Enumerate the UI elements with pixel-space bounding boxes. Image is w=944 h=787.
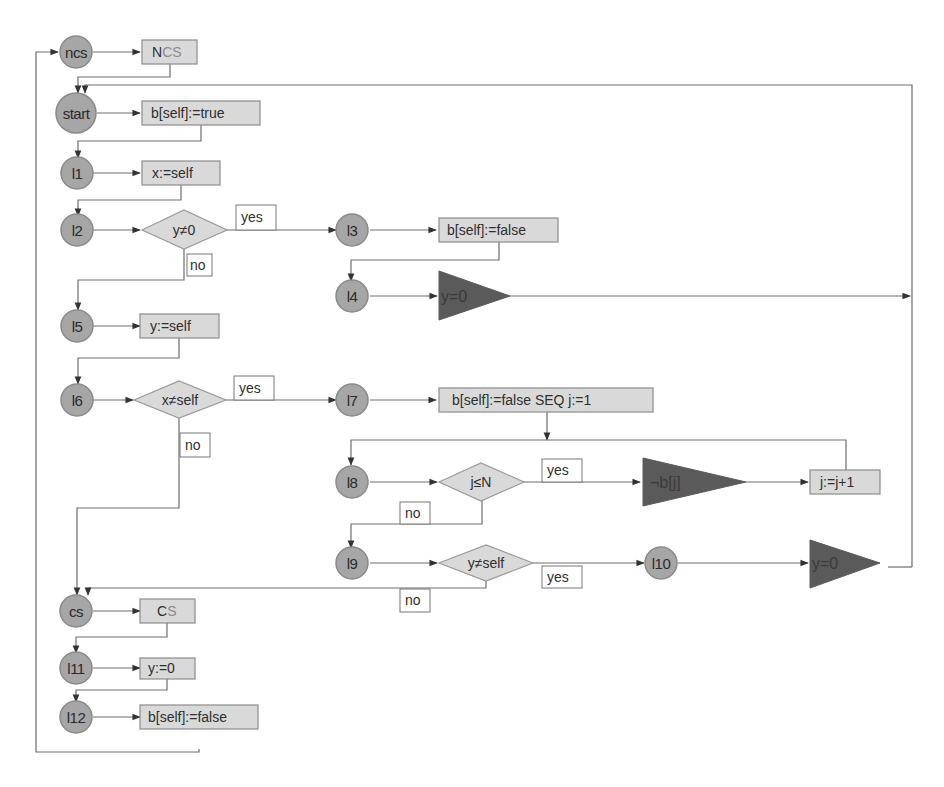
action-l8-increment[interactable]: j:=j+1 (810, 470, 880, 494)
action-label: b[self]:=true (151, 105, 225, 121)
edge-label-l2-no: no (187, 254, 212, 276)
action-sub: CS (162, 44, 181, 60)
state-l7[interactable]: l7 (336, 384, 368, 416)
edge-label-l9-no: no (400, 589, 430, 612)
state-label: l5 (72, 318, 83, 335)
svg-text:no: no (405, 505, 421, 521)
state-label: l12 (67, 709, 86, 726)
action-main: N (152, 44, 162, 60)
edge-box-to-l2 (78, 185, 181, 216)
action-l7[interactable]: b[self]:=false SEQ j:=1 (439, 388, 653, 412)
svg-text:no: no (185, 437, 201, 453)
action-l3[interactable]: b[self]:=false (439, 218, 558, 242)
edge-junction-to-l8 (351, 440, 846, 470)
action-main: C (157, 603, 167, 619)
state-l11[interactable]: l11 (60, 652, 92, 684)
state-l12[interactable]: l12 (60, 701, 92, 733)
action-sub: S (167, 603, 176, 619)
state-label: l4 (347, 288, 358, 305)
svg-text:no: no (190, 257, 206, 273)
state-label: l10 (652, 555, 671, 572)
state-label: l2 (72, 222, 83, 239)
state-l2[interactable]: l2 (61, 214, 93, 246)
state-label: l9 (347, 555, 358, 572)
edge-box-to-l1 (78, 125, 201, 158)
edge-label-l2-yes: yes (236, 205, 276, 230)
svg-text:yes: yes (547, 569, 569, 585)
state-label: l7 (347, 392, 358, 409)
edge-box-to-l6 (78, 338, 179, 384)
state-label: l1 (72, 165, 83, 182)
await-l8[interactable]: ¬b[j] (643, 458, 746, 506)
state-l3[interactable]: l3 (336, 214, 368, 246)
await-l4[interactable]: y=0 (439, 271, 510, 320)
await-l10[interactable]: y=0 (810, 540, 880, 588)
action-l5[interactable]: y:=self (140, 314, 219, 338)
condition-label: y≠self (468, 555, 505, 571)
condition-l6[interactable]: x≠self (134, 381, 226, 418)
await-label: ¬b[j] (650, 474, 681, 491)
action-label: b[self]:=false (148, 709, 227, 725)
edge-NCS-to-start (78, 64, 170, 93)
action-l12[interactable]: b[self]:=false (140, 705, 258, 729)
state-l4[interactable]: l4 (336, 280, 368, 312)
state-l8[interactable]: l8 (336, 466, 368, 498)
condition-label: x≠self (162, 392, 199, 408)
state-start[interactable]: start (56, 93, 96, 133)
edge-box-to-l4 (351, 242, 499, 281)
action-label: y:=0 (148, 660, 175, 676)
edge-box-to-l12 (76, 679, 167, 702)
state-l6[interactable]: l6 (61, 384, 93, 416)
action-l1[interactable]: x:=self (142, 161, 220, 185)
state-l9[interactable]: l9 (336, 547, 368, 579)
state-l5[interactable]: l5 (61, 310, 93, 342)
edge-label-l6-yes: yes (234, 376, 274, 400)
edge-label-l8-no: no (400, 502, 430, 524)
svg-text:yes: yes (241, 209, 263, 225)
action-start[interactable]: b[self]:=true (142, 101, 260, 125)
condition-l8[interactable]: j≤N (439, 463, 524, 501)
state-label: l3 (347, 222, 358, 239)
edge-label-l6-no: no (180, 433, 210, 457)
await-label: y=0 (812, 555, 838, 572)
svg-text:NCS: NCS (152, 44, 182, 60)
action-label: j:=j+1 (819, 474, 854, 490)
await-label: y=0 (441, 288, 467, 305)
condition-l9[interactable]: y≠self (439, 545, 533, 581)
svg-text:CS: CS (157, 603, 176, 619)
action-label: b[self]:=false (447, 222, 526, 238)
state-label: l8 (347, 474, 358, 491)
condition-l2[interactable]: y≠0 (142, 210, 227, 249)
state-label: start (63, 105, 91, 122)
edge-label-l9-yes: yes (542, 566, 582, 588)
action-l11[interactable]: y:=0 (140, 658, 195, 679)
edge-label-l8-yes: yes (542, 459, 582, 482)
action-ncs[interactable]: NCS (142, 40, 197, 64)
edge-CS-to-l11 (76, 623, 167, 653)
svg-text:no: no (405, 592, 421, 608)
state-label: l6 (72, 392, 83, 409)
state-label: l11 (67, 660, 85, 677)
action-cs[interactable]: CS (140, 599, 195, 623)
action-label: b[self]:=false SEQ j:=1 (452, 392, 592, 408)
state-l1[interactable]: l1 (61, 157, 93, 189)
state-l10[interactable]: l10 (645, 547, 677, 579)
svg-text:yes: yes (239, 380, 261, 396)
condition-label: j≤N (470, 474, 492, 490)
state-ncs[interactable]: ncs (60, 36, 92, 68)
svg-text:yes: yes (547, 462, 569, 478)
edge-l6-no-to-cs (77, 418, 179, 595)
condition-label: y≠0 (173, 222, 196, 238)
state-label: cs (69, 603, 83, 620)
state-label: ncs (65, 44, 87, 61)
action-label: y:=self (150, 318, 191, 334)
flowchart-diagram: ncs start l1 l2 l3 l4 l5 l6 l7 l8 l9 (0, 0, 944, 787)
action-label: x:=self (152, 165, 193, 181)
edge-cond-no-to-l5 (78, 249, 184, 310)
state-cs[interactable]: cs (60, 595, 92, 627)
